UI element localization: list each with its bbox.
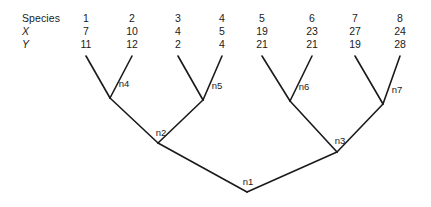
- node-label-n7: n7: [385, 85, 409, 95]
- branch-leaf-1-to-n4: [86, 56, 110, 98]
- branch-leaf-2-to-n4: [110, 56, 132, 98]
- branch-leaf-8-to-n7: [383, 56, 400, 104]
- tree-branches-svg: [0, 0, 431, 207]
- branch-leaf-4-to-n5: [203, 56, 222, 100]
- node-label-n6: n6: [292, 82, 316, 92]
- node-label-n3: n3: [328, 136, 352, 146]
- node-label-n4: n4: [112, 79, 136, 89]
- node-label-n5: n5: [205, 81, 229, 91]
- branch-leaf-7-to-n7: [355, 56, 383, 104]
- node-label-n2: n2: [149, 128, 173, 138]
- branch-leaf-5-to-n6: [262, 56, 290, 101]
- branch-leaf-6-to-n6: [290, 56, 312, 101]
- branch-leaf-3-to-n5: [178, 56, 203, 100]
- node-label-n1: n1: [236, 177, 260, 187]
- tree-drawing: n4 n5 n6 n7 n2 n3 n1: [0, 0, 431, 207]
- phylogenetic-tree-figure: Species X Y 1 2 3 4 5 6 7 8 7 10 4 5 19 …: [0, 0, 431, 207]
- branch-n3-to-n1: [247, 152, 337, 192]
- branch-n2-to-n1: [158, 143, 247, 192]
